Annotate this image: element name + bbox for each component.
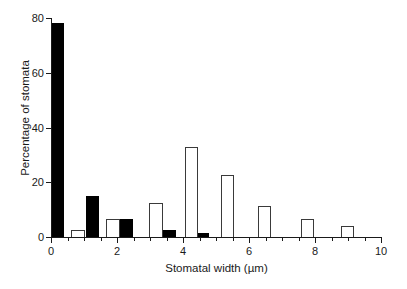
x-minor-tick-5.5 [233, 238, 234, 241]
y-axis-line [51, 18, 52, 238]
y-tick-0 [46, 237, 51, 238]
y-tick-80 [46, 18, 51, 19]
x-tick-10 [381, 238, 382, 243]
y-tick-40 [46, 128, 51, 129]
x-minor-tick-7.5 [299, 238, 300, 241]
y-tick-label-0: 0 [20, 232, 44, 243]
x-tick-label-8: 8 [300, 245, 330, 258]
x-tick-0 [51, 238, 52, 243]
bar-open-6.28 [258, 206, 271, 237]
x-tick-label-6: 6 [234, 245, 264, 258]
y-tick-60 [46, 73, 51, 74]
bar-closed-2.1 [120, 219, 133, 237]
x-minor-tick-3 [150, 238, 151, 241]
y-axis-title: Percentage of stomata [19, 38, 31, 198]
x-minor-tick-9.5 [365, 238, 366, 241]
x-minor-tick-3.5 [167, 238, 168, 241]
x-minor-tick-5 [216, 238, 217, 241]
bar-open-7.58 [301, 219, 314, 237]
x-minor-tick-6.5 [266, 238, 267, 241]
x-tick-2 [117, 238, 118, 243]
bar-open-1.68 [106, 219, 119, 237]
bar-closed-1.05 [86, 196, 99, 237]
bar-open-8.78 [341, 226, 354, 237]
bar-open-0.62 [71, 230, 84, 237]
x-minor-tick-0.5 [68, 238, 69, 241]
bar-closed-0 [51, 23, 64, 237]
x-minor-tick-7 [282, 238, 283, 241]
bar-open-4.05 [185, 147, 198, 237]
x-tick-label-2: 2 [102, 245, 132, 258]
x-minor-tick-1.5 [101, 238, 102, 241]
bar-closed-3.4 [163, 230, 176, 237]
x-minor-tick-8.5 [332, 238, 333, 241]
x-tick-label-4: 4 [168, 245, 198, 258]
x-tick-4 [183, 238, 184, 243]
x-axis-title: Stomatal width (µm) [51, 262, 382, 274]
x-minor-tick-1 [84, 238, 85, 241]
x-minor-tick-4.5 [200, 238, 201, 241]
x-tick-label-10: 10 [366, 245, 396, 258]
x-tick-6 [249, 238, 250, 243]
x-minor-tick-9 [348, 238, 349, 241]
x-minor-tick-2.5 [134, 238, 135, 241]
bar-open-5.15 [221, 175, 234, 237]
x-tick-8 [315, 238, 316, 243]
plot-area [51, 18, 381, 237]
stomatal-width-histogram: 0246810 020406080 Stomatal width (µm) Pe… [0, 0, 407, 289]
y-tick-label-80: 80 [20, 13, 44, 24]
y-tick-20 [46, 182, 51, 183]
bar-open-2.98 [149, 203, 162, 237]
